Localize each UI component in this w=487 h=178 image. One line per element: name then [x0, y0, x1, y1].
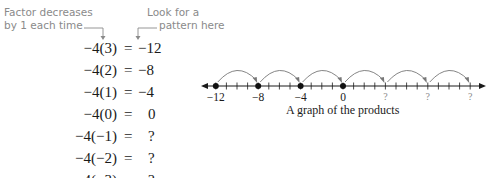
jump-arc [345, 70, 383, 82]
tick-label: −4 [294, 91, 306, 103]
arc-arrowhead-icon [422, 77, 427, 83]
arc-arrowhead-icon [295, 77, 300, 83]
tick-label: 0 [340, 91, 346, 103]
tick-label: ? [426, 91, 430, 102]
tick-label: −8 [252, 91, 264, 103]
arrow-left-icon [201, 83, 208, 89]
arc-arrowhead-icon [253, 77, 258, 83]
jump-arc [260, 70, 298, 82]
arrow-right-icon [479, 83, 486, 89]
jump-arc [303, 70, 341, 82]
graph-caption: A graph of the products [286, 103, 399, 118]
jump-arc [218, 70, 256, 82]
plotted-point [298, 83, 304, 89]
jump-arc [387, 70, 425, 82]
arc-arrowhead-icon [338, 77, 343, 83]
arc-arrowhead-icon [380, 77, 385, 83]
plotted-point [340, 83, 346, 89]
arc-arrowhead-icon [465, 77, 470, 83]
number-line [0, 0, 487, 178]
plotted-point [255, 83, 261, 89]
plotted-point [213, 83, 219, 89]
tick-label: ? [383, 91, 387, 102]
jump-arc [430, 70, 468, 82]
tick-label: ? [468, 91, 472, 102]
tick-label: −12 [207, 91, 225, 103]
